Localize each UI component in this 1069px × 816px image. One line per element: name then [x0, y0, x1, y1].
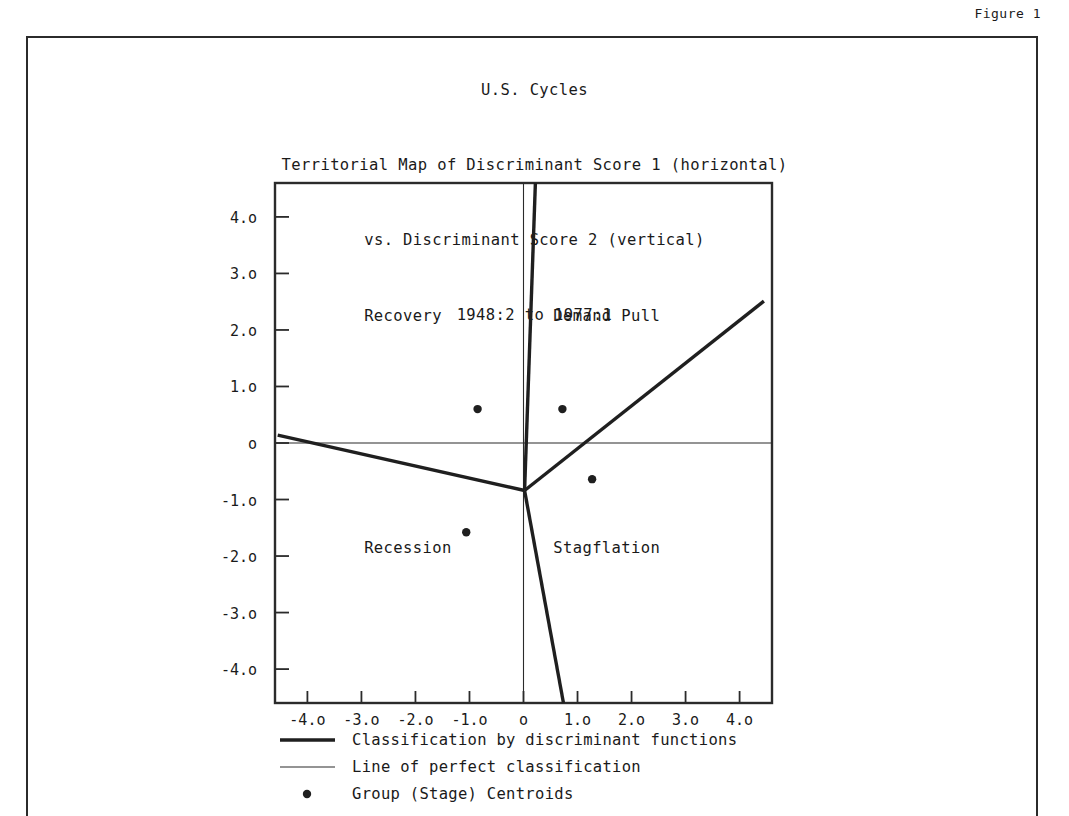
chart-title-line-4: 1948:2 to 1977:1 — [0, 303, 1069, 328]
figure-number-label: Figure 1 — [974, 6, 1041, 21]
chart-title-line-2: Territorial Map of Discriminant Score 1 … — [0, 153, 1069, 178]
chart-title-line-3: vs. Discriminant Score 2 (vertical) — [0, 228, 1069, 253]
chart-title-line-1: U.S. Cycles — [0, 78, 1069, 103]
chart-title-block: U.S. Cycles Territorial Map of Discrimin… — [0, 28, 1069, 353]
